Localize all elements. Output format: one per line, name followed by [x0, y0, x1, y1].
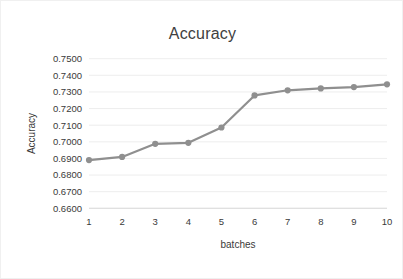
x-axis-tick-label: 7	[285, 216, 290, 227]
data-point-marker	[318, 85, 324, 91]
axis-titles-group: batches Accuracy	[26, 113, 256, 250]
x-axis-tick-label: 8	[318, 216, 323, 227]
y-axis-tick-label: 0.6700	[53, 186, 82, 197]
y-axis-tick-label: 0.7400	[53, 70, 82, 81]
x-axis-tick-label: 2	[119, 216, 124, 227]
data-point-marker	[351, 84, 357, 90]
data-point-marker	[251, 92, 257, 98]
x-axis-tick-label: 6	[252, 216, 257, 227]
y-axis-tick-labels: 0.75000.74000.73000.72000.71000.70000.69…	[53, 53, 82, 214]
series-path-group	[89, 84, 387, 160]
data-point-marker	[285, 87, 291, 93]
x-axis-tick-label: 3	[153, 216, 158, 227]
y-axis-tick-label: 0.7000	[53, 136, 82, 147]
data-point-marker	[384, 81, 390, 87]
x-axis-tick-label: 4	[186, 216, 191, 227]
line-chart-plot: 0.75000.74000.73000.72000.71000.70000.69…	[1, 1, 403, 279]
data-point-marker	[185, 140, 191, 146]
data-point-marker	[218, 124, 224, 130]
x-axis-tick-labels: 12345678910	[86, 216, 392, 227]
gridlines-group	[89, 59, 387, 209]
y-axis-tick-label: 0.7300	[53, 86, 82, 97]
x-axis-tick-label: 5	[219, 216, 224, 227]
y-axis-tick-label: 0.6800	[53, 169, 82, 180]
x-axis-tick-label: 10	[382, 216, 393, 227]
y-axis-tick-label: 0.7200	[53, 103, 82, 114]
data-point-marker	[152, 141, 158, 147]
chart-container: Accuracy 0.75000.74000.73000.72000.71000…	[0, 0, 403, 279]
x-axis-tick-label: 1	[86, 216, 91, 227]
y-axis-tick-label: 0.7100	[53, 120, 82, 131]
x-axis-title: batches	[220, 239, 255, 250]
data-point-marker	[86, 157, 92, 163]
y-axis-tick-label: 0.6600	[53, 203, 82, 214]
data-point-marker	[119, 154, 125, 160]
series-markers-group	[86, 81, 390, 163]
x-axis-tick-label: 9	[351, 216, 356, 227]
y-axis-tick-label: 0.6900	[53, 153, 82, 164]
y-axis-title: Accuracy	[26, 113, 37, 154]
y-axis-tick-label: 0.7500	[53, 53, 82, 64]
series-line-accuracy	[89, 84, 387, 160]
